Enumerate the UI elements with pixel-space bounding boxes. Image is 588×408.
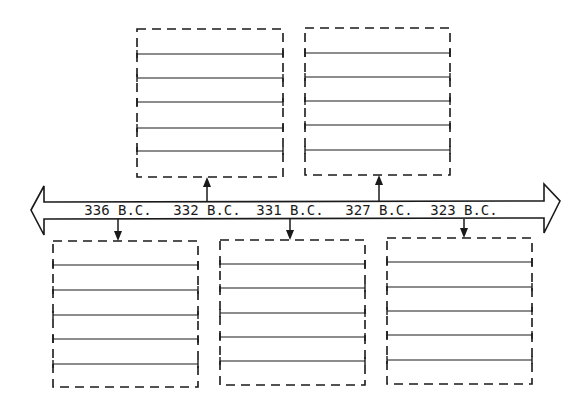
- event-date-label: 332 B.C.: [173, 202, 240, 218]
- event-date-label: 327 B.C.: [345, 202, 412, 218]
- arrow-down-icon: [114, 231, 122, 241]
- answer-box-bottom-1[interactable]: [220, 240, 365, 385]
- event-date-label: 336 B.C.: [84, 202, 151, 218]
- dashed-box-border: [53, 241, 198, 387]
- answer-box-top-0[interactable]: [137, 29, 283, 177]
- arrow-down-icon: [460, 228, 468, 238]
- answer-box-top-1[interactable]: [305, 28, 450, 175]
- dashed-box-border: [137, 29, 283, 177]
- event-date-label: 331 B.C.: [256, 202, 323, 218]
- arrow-down-icon: [286, 230, 294, 240]
- timeline-diagram: 336 B.C.332 B.C.331 B.C.327 B.C.323 B.C.: [0, 0, 588, 408]
- answer-box-bottom-0[interactable]: [53, 241, 198, 387]
- event-labels: 336 B.C.332 B.C.331 B.C.327 B.C.323 B.C.: [84, 202, 497, 218]
- arrow-up-icon: [375, 175, 383, 185]
- arrow-up-icon: [203, 177, 211, 187]
- answer-box-bottom-2[interactable]: [387, 238, 532, 384]
- event-date-label: 323 B.C.: [430, 202, 497, 218]
